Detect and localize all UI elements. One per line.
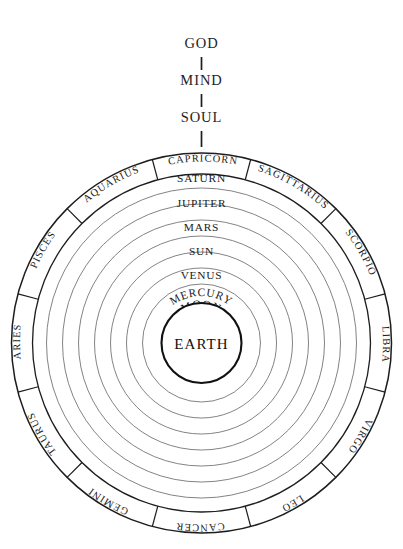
hierarchy-label-god: GOD bbox=[184, 35, 218, 51]
zodiac-label-libra: LIBRA bbox=[380, 326, 392, 364]
zodiac-label-cancer: CANCER bbox=[175, 521, 225, 534]
hierarchy-label-mind: MIND bbox=[180, 72, 222, 88]
diagram-canvas: GOD MIND SOUL bbox=[0, 0, 403, 549]
zodiac-label-aries: ARIES bbox=[11, 323, 23, 360]
sphere-label-venus: VENUS bbox=[181, 269, 223, 281]
sphere-label-mars: MARS bbox=[184, 221, 219, 233]
hierarchy-chain: GOD MIND SOUL bbox=[180, 35, 222, 147]
earth-label: EARTH bbox=[174, 336, 229, 352]
earth-core: EARTH bbox=[162, 303, 242, 383]
cosmology-diagram: GOD MIND SOUL bbox=[0, 0, 403, 549]
sphere-label-sun: SUN bbox=[189, 245, 214, 257]
sphere-label-jupiter: JUPITER bbox=[177, 197, 227, 209]
hierarchy-label-soul: SOUL bbox=[181, 109, 222, 125]
sphere-label-saturn: SATURN bbox=[177, 172, 226, 184]
